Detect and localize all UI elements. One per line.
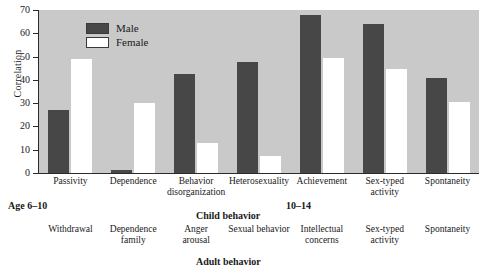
bar-female-heterosexuality: [260, 156, 281, 173]
adult-label-line1: Spontaneity: [410, 224, 484, 235]
y-tick-label: 10: [20, 144, 30, 155]
adult-label-line2: arousal: [159, 235, 234, 246]
bar-female-passivity: [71, 59, 92, 173]
bar-male-passivity: [48, 110, 69, 173]
y-tick-label: 30: [20, 97, 30, 108]
y-tick-label: 50: [20, 51, 30, 62]
adult-behavior-axis-title: Adult behavior: [196, 256, 261, 267]
child-behavior-axis-title: Child behavior: [196, 210, 260, 221]
child-label-line2: activity: [347, 187, 422, 198]
age-range-left-caption: Age 6–10: [8, 200, 47, 211]
legend-item-male: Male: [86, 23, 148, 34]
child-label-6: Spontaneity: [410, 176, 484, 187]
plot-area: MaleFemale: [39, 10, 479, 173]
y-tick-label: 40: [20, 74, 30, 85]
chart-legend: MaleFemale: [86, 23, 148, 48]
bar-female-spontaneity: [449, 102, 470, 173]
bar-female-behavior-disorganization: [197, 143, 218, 173]
legend-label: Male: [116, 23, 139, 34]
bar-chart-figure: Correlation 706050403020100 MaleFemale P…: [0, 0, 484, 274]
x-axis-line: [38, 173, 479, 174]
bar-male-sex-typed-activity: [363, 24, 384, 173]
age-range-right-caption: 10–14: [286, 200, 311, 211]
y-tick-label: 60: [20, 27, 30, 38]
bar-male-heterosexuality: [237, 62, 258, 173]
adult-label-6: Spontaneity: [410, 224, 484, 235]
bar-female-achievement: [323, 58, 344, 173]
bar-female-dependence: [134, 103, 155, 173]
bar-male-achievement: [300, 15, 321, 173]
adult-label-line2: activity: [347, 235, 422, 246]
legend-swatch-female-icon: [86, 37, 109, 48]
y-tick-label: 70: [20, 4, 30, 15]
child-label-line1: Spontaneity: [410, 176, 484, 187]
bar-female-sex-typed-activity: [386, 69, 407, 173]
bar-male-behavior-disorganization: [174, 74, 195, 173]
bar-male-spontaneity: [426, 78, 447, 173]
legend-swatch-male-icon: [86, 23, 109, 34]
y-tick-label: 20: [20, 120, 30, 131]
legend-item-female: Female: [86, 37, 148, 48]
child-label-line2: disorganization: [159, 187, 234, 198]
y-tick-label: 0: [25, 167, 30, 178]
legend-label: Female: [116, 37, 148, 48]
